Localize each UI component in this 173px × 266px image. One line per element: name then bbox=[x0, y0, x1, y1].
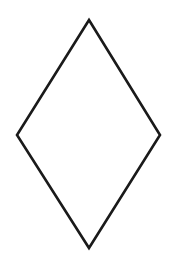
rhombus-diagram: Rhombus Black outlined rhombus (diamond)… bbox=[0, 0, 173, 266]
figure-canvas: Rhombus Black outlined rhombus (diamond)… bbox=[0, 0, 173, 266]
rhombus-shape bbox=[17, 20, 160, 248]
